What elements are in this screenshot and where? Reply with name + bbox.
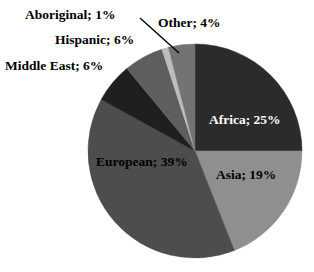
slice-label-africa: Africa; 25% (209, 113, 281, 127)
slice-label-european: European; 39% (96, 155, 188, 169)
pie-slice-africa[interactable] (195, 44, 302, 151)
pie-slice-group (88, 44, 302, 258)
slice-label-other: Other; 4% (158, 16, 221, 30)
slice-label-middle-east: Middle East; 6% (5, 59, 103, 73)
pie-chart: Aboriginal; 1% Other; 4% Hispanic; 6% Mi… (0, 0, 314, 272)
slice-label-hispanic: Hispanic; 6% (55, 33, 134, 47)
slice-label-asia: Asia; 19% (216, 168, 276, 182)
slice-label-aboriginal: Aboriginal; 1% (25, 8, 115, 22)
pie-chart-canvas (0, 0, 314, 272)
